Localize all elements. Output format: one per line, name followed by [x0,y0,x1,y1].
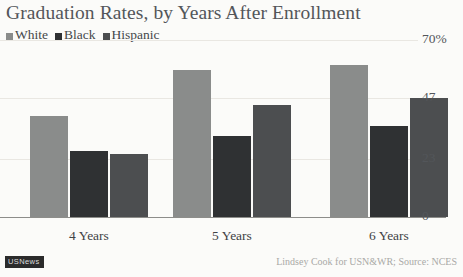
bar-white-6-years [330,65,368,217]
y-axis-tick-label: 70% [422,31,447,47]
chart-credit: Lindsey Cook for USN&WR; Source: NCES [276,256,457,267]
plot-area [0,34,418,218]
x-axis-tick-label: 4 Years [44,228,134,244]
x-axis-line [0,217,446,218]
x-axis-tick-label: 5 Years [187,228,277,244]
page-title: Graduation Rates, by Years After Enrollm… [6,2,361,24]
y-axis-tick-label: 47 [422,89,436,105]
bar-black-5-years [213,136,251,217]
bar-white-5-years [173,70,211,217]
chart-figure: Graduation Rates, by Years After Enrollm… [0,0,463,277]
bar-black-6-years [370,126,408,217]
x-axis-tick-label: 6 Years [344,228,434,244]
bar-black-4-years [70,151,108,217]
bar-white-4-years [30,116,68,217]
y-axis-tick-label: 23 [422,150,436,166]
y-axis-tick-label: 0 [422,208,429,224]
usnews-logo: USNews [5,256,44,268]
bar-hispanic-5-years [253,105,291,217]
gridline [0,40,418,41]
bar-hispanic-4-years [110,154,148,217]
